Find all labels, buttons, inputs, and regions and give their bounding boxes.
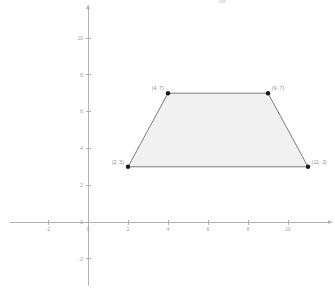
- x-tick-label: 0: [87, 227, 90, 232]
- vertex-point: [306, 165, 310, 169]
- y-axis-arrow-icon: [86, 5, 90, 9]
- y-tick-label: 8: [80, 73, 83, 78]
- polygon-shapes: [128, 93, 308, 167]
- vertex-coordinate-label: (11, 3): [312, 159, 327, 165]
- x-axis-arrow-icon: [328, 220, 332, 224]
- x-tick-label: 8: [247, 227, 250, 232]
- x-tick-label: -2: [46, 227, 51, 232]
- vertex-coordinate-label: (2, 3): [112, 159, 125, 165]
- vertex-coordinate-label: (9, 7): [272, 85, 285, 91]
- y-tick-label: 4: [80, 146, 83, 151]
- y-tick-label: 6: [80, 109, 83, 114]
- y-tick-label: 0: [80, 220, 83, 225]
- figure-root: -20246810 -20246810 (2, 3)(4, 7)(9, 7)(1…: [0, 0, 335, 300]
- vertex-point: [266, 91, 270, 95]
- polygon-fill: [128, 93, 308, 167]
- x-tick-label: 4: [167, 227, 170, 232]
- coordinate-plane-plot: -20246810 -20246810 (2, 3)(4, 7)(9, 7)(1…: [0, 0, 335, 300]
- x-tick-label: 10: [285, 227, 291, 232]
- vertex-point: [126, 165, 130, 169]
- vertex-point: [166, 91, 170, 95]
- y-tick-label: 10: [78, 36, 84, 41]
- y-tick-label: -2: [79, 257, 84, 262]
- vertex-coordinate-label: (4, 7): [152, 85, 165, 91]
- x-tick-label: 6: [207, 227, 210, 232]
- y-tick-label: 2: [80, 183, 83, 188]
- x-tick-label: 2: [127, 227, 130, 232]
